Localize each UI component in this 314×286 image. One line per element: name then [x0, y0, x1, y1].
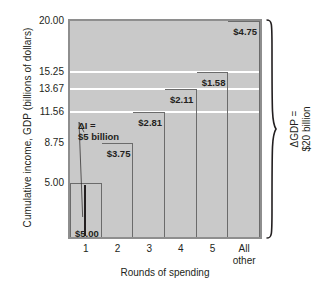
x-tick-line: 2 — [102, 243, 134, 255]
x-tick-line: All — [228, 243, 260, 255]
x-tick-line: other — [228, 255, 260, 267]
plot-inner: $5.00$3.75$2.81$2.11$1.58$4.75ΔI =$5 bil… — [70, 21, 260, 237]
y-tick-label: 20.00 — [20, 15, 64, 26]
delta-gdp-line1: ΔGDP = — [289, 54, 301, 204]
y-tick-label: 15.25 — [20, 66, 64, 77]
x-tick-label: 1 — [70, 243, 102, 255]
x-tick-label: 5 — [197, 243, 229, 255]
x-tick-line: 3 — [133, 243, 165, 255]
x-tick-label: 3 — [133, 243, 165, 255]
delta-i-leader-line — [70, 21, 260, 237]
y-tick-label: 11.56 — [20, 106, 64, 117]
brace-icon — [265, 19, 277, 239]
x-tick-label: 4 — [165, 243, 197, 255]
y-tick-label: 13.67 — [20, 83, 64, 94]
x-tick-label: 2 — [102, 243, 134, 255]
y-axis-tick-labels: 5.008.7511.5613.6715.2520.00 — [18, 19, 64, 239]
x-tick-line: 5 — [197, 243, 229, 255]
x-tick-label: Allother — [228, 243, 260, 267]
y-tick-label: 8.75 — [20, 137, 64, 148]
x-tick-line: 4 — [165, 243, 197, 255]
y-tick-label: 5.00 — [20, 177, 64, 188]
plot-area: $5.00$3.75$2.81$2.11$1.58$4.75ΔI =$5 bil… — [68, 19, 262, 239]
delta-gdp-brace — [265, 19, 277, 239]
x-axis-title: Rounds of spending — [68, 267, 262, 278]
delta-gdp-annotation: ΔGDP = $20 billion — [289, 54, 313, 204]
x-tick-line: 1 — [70, 243, 102, 255]
delta-gdp-line2: $20 billion — [301, 54, 313, 204]
chart-figure: Cumulative income, GDP (billions of doll… — [0, 0, 314, 286]
